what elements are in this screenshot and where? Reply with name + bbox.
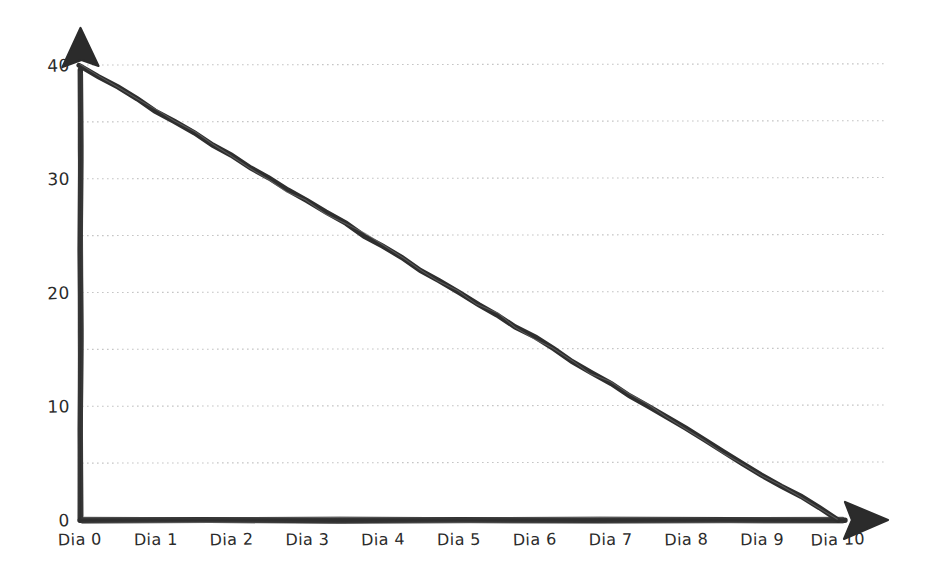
y-axis-tick-label: 20 xyxy=(47,283,70,304)
y-axis-texture-2 xyxy=(82,74,83,516)
y-axis-tick-label: 40 xyxy=(47,55,70,76)
x-axis-tick-label: Dia 1 xyxy=(134,530,178,549)
y-axis-tick-label: 30 xyxy=(47,169,70,189)
x-axis-tick-label: Dia 7 xyxy=(589,530,633,549)
y-axis-texture xyxy=(79,72,80,518)
chart-background xyxy=(0,0,928,572)
chart-container: 010203040 Dia 0Dia 1Dia 2Dia 3Dia 4Dia 5… xyxy=(0,0,928,572)
x-axis-tick-label: Dia 9 xyxy=(740,530,784,549)
x-axis-tick-label: Dia 6 xyxy=(512,529,556,549)
x-axis-texture xyxy=(82,518,843,519)
y-axis-tick-label: 10 xyxy=(47,396,70,416)
line-chart: 010203040 Dia 0Dia 1Dia 2Dia 3Dia 4Dia 5… xyxy=(0,0,928,572)
x-axis-tick-label: Dia 10 xyxy=(810,529,865,550)
x-axis-tick-label: Dia 0 xyxy=(58,529,102,549)
y-axis-tick-label: 0 xyxy=(58,510,70,530)
x-axis-tick-label: Dia 2 xyxy=(209,529,253,549)
x-axis-texture-2 xyxy=(82,522,843,523)
x-axis-tick-label: Dia 4 xyxy=(361,529,405,549)
x-axis-line xyxy=(80,520,845,521)
x-axis-tick-label: Dia 5 xyxy=(437,530,481,549)
x-axis-tick-label: Dia 8 xyxy=(664,529,708,549)
x-axis-tick-label: Dia 3 xyxy=(285,530,329,549)
